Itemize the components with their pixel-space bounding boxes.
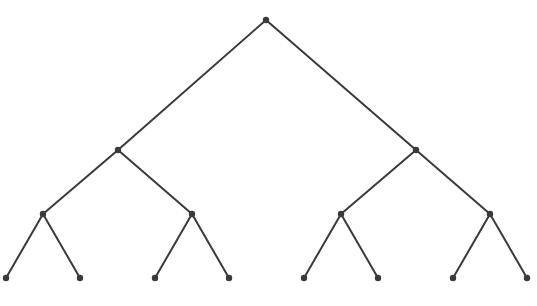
tree-node [375,275,381,281]
tree-node [152,275,158,281]
tree-node [226,275,232,281]
tree-node [301,275,307,281]
tree-node [450,275,456,281]
tree-node [263,17,269,23]
tree-node [413,147,419,153]
tree-edge [341,214,378,278]
tree-node [338,211,344,217]
tree-edge [43,214,80,278]
tree-edge [118,150,192,214]
tree-node [40,211,46,217]
tree-edge [43,150,118,214]
tree-edge [453,214,490,278]
tree-edge [304,214,341,278]
tree-node [189,211,195,217]
tree-node [115,147,121,153]
tree-node [487,211,493,217]
tree-edge [6,214,43,278]
tree-edges [6,20,527,278]
tree-edge [416,150,490,214]
tree-edge [266,20,416,150]
tree-node [77,275,83,281]
tree-edge [155,214,192,278]
tree-edge [341,150,416,214]
tree-node [524,275,530,281]
tree-edge [118,20,266,150]
tree-node [3,275,9,281]
tree-edge [490,214,527,278]
tree-edge [192,214,229,278]
binary-tree-diagram [0,0,537,306]
tree-nodes [3,17,530,281]
